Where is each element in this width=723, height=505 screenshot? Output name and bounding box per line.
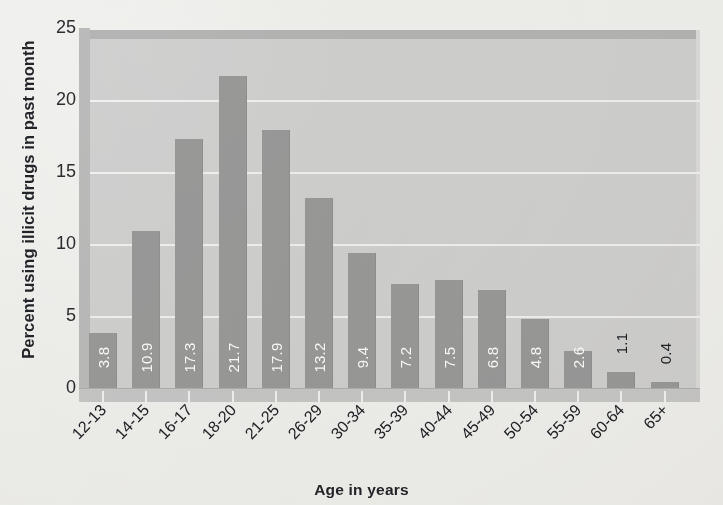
bar-value-label: 9.4 bbox=[354, 347, 371, 368]
x-tick-label-text: 55-59 bbox=[544, 401, 585, 443]
plot-right-border bbox=[696, 28, 700, 388]
x-tick-label-text: 12-13 bbox=[69, 401, 110, 443]
bar bbox=[478, 290, 506, 388]
bar bbox=[435, 280, 463, 388]
bar-value-label: 1.1 bbox=[613, 333, 630, 354]
y-tick-label: 0 bbox=[12, 377, 76, 398]
x-tick-label-text: 14-15 bbox=[112, 401, 153, 443]
bar-value-label: 4.8 bbox=[527, 347, 544, 368]
y-tick-label: 25 bbox=[12, 17, 76, 38]
y-tick-label: 10 bbox=[12, 233, 76, 254]
bar-value-label: 7.5 bbox=[440, 347, 457, 368]
bar-value-label: 10.9 bbox=[138, 343, 155, 373]
gridline bbox=[90, 28, 700, 30]
bar-value-label: 6.8 bbox=[483, 347, 500, 368]
bar-value-label: 17.9 bbox=[267, 343, 284, 373]
bar-value-label: 13.2 bbox=[311, 343, 328, 373]
x-tick-label-text: 40-44 bbox=[414, 401, 455, 443]
bar-value-label: 7.2 bbox=[397, 347, 414, 368]
x-tick-label-text: 60-64 bbox=[587, 401, 628, 443]
bar-value-label: 17.3 bbox=[181, 343, 198, 373]
bar bbox=[391, 284, 419, 388]
x-tick-label-text: 50-54 bbox=[501, 401, 542, 443]
x-tick-label-text: 18-20 bbox=[198, 401, 239, 443]
bar-value-label: 3.8 bbox=[95, 347, 112, 368]
x-tick-label-text: 45-49 bbox=[457, 401, 498, 443]
y-tick-label: 15 bbox=[12, 161, 76, 182]
x-tick-label-text: 21-25 bbox=[241, 401, 282, 443]
y-tick-label: 5 bbox=[12, 305, 76, 326]
plot-area: 3.810.917.321.717.913.29.47.27.56.84.82.… bbox=[79, 28, 700, 388]
x-tick-label-text: 65+ bbox=[640, 401, 672, 433]
bar-value-label: 0.4 bbox=[656, 343, 673, 364]
bar-value-label: 21.7 bbox=[224, 343, 241, 373]
gridline bbox=[90, 100, 700, 102]
x-axis-tick-labels: 12-1314-1516-1718-2021-2526-2930-3435-39… bbox=[0, 401, 723, 471]
x-tick-label-text: 35-39 bbox=[371, 401, 412, 443]
bar-value-label: 2.6 bbox=[570, 347, 587, 368]
x-axis-title: Age in years bbox=[0, 481, 723, 499]
bar bbox=[219, 76, 247, 388]
y-tick-label: 20 bbox=[12, 89, 76, 110]
x-tick-label-text: 30-34 bbox=[328, 401, 369, 443]
x-tick-label-text: 26-29 bbox=[285, 401, 326, 443]
x-tick-label-text: 16-17 bbox=[155, 401, 196, 443]
